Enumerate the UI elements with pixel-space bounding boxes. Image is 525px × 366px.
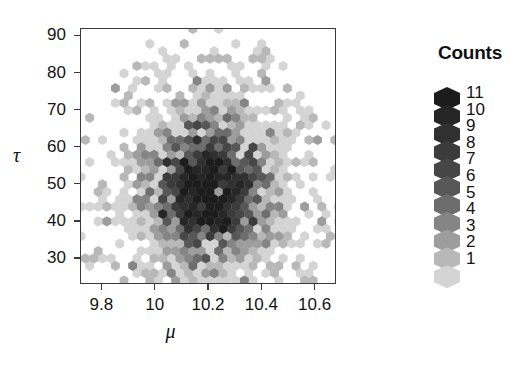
x-tick-mark bbox=[207, 284, 208, 290]
hexbin-chart-figure: τ 90807060504030 9.81010.210.410.6 μ Cou… bbox=[0, 0, 525, 366]
x-tick-mark bbox=[101, 284, 102, 290]
legend-label-column: 1110987654321 bbox=[466, 85, 516, 268]
legend-count-label: 1 bbox=[466, 251, 516, 268]
x-axis-title: μ bbox=[0, 320, 525, 343]
y-axis-title: τ bbox=[13, 144, 20, 167]
y-tick-label: 90 bbox=[24, 26, 66, 43]
y-tick-label: 30 bbox=[24, 249, 66, 266]
x-tick-mark bbox=[261, 284, 262, 290]
y-tick-label: 40 bbox=[24, 212, 66, 229]
x-tick-label: 10.2 bbox=[178, 296, 238, 313]
x-tick-label: 9.8 bbox=[71, 296, 131, 313]
legend-hex-swatch bbox=[434, 265, 460, 288]
legend-title: Counts bbox=[420, 42, 520, 64]
y-tick-label: 60 bbox=[24, 138, 66, 155]
x-tick-label: 10 bbox=[125, 296, 185, 313]
legend-swatch-column bbox=[434, 87, 466, 283]
plot-panel bbox=[80, 28, 336, 284]
x-tick-mark bbox=[314, 284, 315, 290]
x-tick-label: 10.6 bbox=[285, 296, 345, 313]
y-tick-label: 50 bbox=[24, 175, 66, 192]
hexbin-plot-area bbox=[81, 29, 336, 284]
y-tick-label: 80 bbox=[24, 64, 66, 81]
x-tick-label: 10.4 bbox=[231, 296, 291, 313]
x-axis-title-text: μ bbox=[165, 320, 175, 342]
y-tick-label: 70 bbox=[24, 101, 66, 118]
legend: Counts 1110987654321 bbox=[420, 42, 520, 282]
x-tick-mark bbox=[154, 284, 155, 290]
